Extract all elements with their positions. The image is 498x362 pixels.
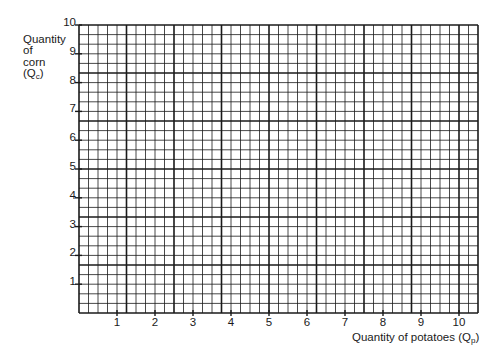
x-tick-label: 8 <box>380 316 386 328</box>
y-axis-title: Quantity of corn (Qc) <box>23 34 66 82</box>
y-tick-label: 3 <box>70 218 76 230</box>
x-tick-label: 2 <box>152 316 158 328</box>
y-axis-title-line-2: of <box>23 45 66 56</box>
y-tick-label: 10 <box>63 16 76 28</box>
y-tick-label: 6 <box>70 131 76 143</box>
x-axis-title: Quantity of potatoes (Qp) <box>352 331 479 345</box>
x-axis-title-sub: p <box>471 336 475 345</box>
x-axis-title-text: Quantity of potatoes <box>352 331 455 343</box>
x-tick-label: 10 <box>453 316 466 328</box>
x-tick-label: 6 <box>304 316 310 328</box>
y-tick-label: 2 <box>70 246 76 258</box>
y-tick-label: 5 <box>70 160 76 172</box>
y-tick-label: 1 <box>70 275 76 287</box>
y-tick-label: 4 <box>70 189 76 201</box>
x-tick-label: 3 <box>190 316 196 328</box>
x-tick-label: 9 <box>418 316 424 328</box>
y-tick-label: 7 <box>70 102 76 114</box>
x-tick-label: 7 <box>342 316 348 328</box>
x-tick-label: 5 <box>266 316 272 328</box>
y-tick-label: 9 <box>70 45 76 57</box>
x-tick-label: 4 <box>228 316 234 328</box>
y-axis-title-symbol: (Qc) <box>23 68 66 82</box>
y-tick-label: 8 <box>70 74 76 86</box>
x-tick-label: 1 <box>114 316 120 328</box>
